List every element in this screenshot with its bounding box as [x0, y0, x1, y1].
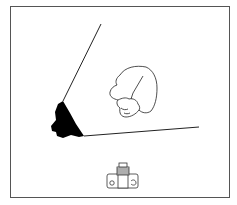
hand-pressing-icon [110, 66, 157, 117]
black-corner-tab [51, 101, 84, 138]
camera-icon [107, 163, 138, 188]
illustration-canvas [0, 0, 237, 205]
